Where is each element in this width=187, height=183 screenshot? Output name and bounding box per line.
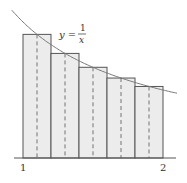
rectangle-4	[107, 78, 135, 158]
tick-label-2: 2	[160, 162, 166, 173]
midpoint-rectangles	[23, 34, 163, 158]
midpoint-rule-diagram: 1 2 y = 1 x	[0, 0, 187, 183]
diagram-canvas: 1 2 y = 1 x	[0, 0, 187, 183]
function-label: y = 1 x	[58, 23, 86, 45]
function-label-numerator: 1	[80, 23, 86, 33]
function-label-denominator: x	[79, 35, 84, 45]
function-label-lhs: y =	[58, 29, 76, 40]
tick-label-1: 1	[20, 162, 26, 173]
